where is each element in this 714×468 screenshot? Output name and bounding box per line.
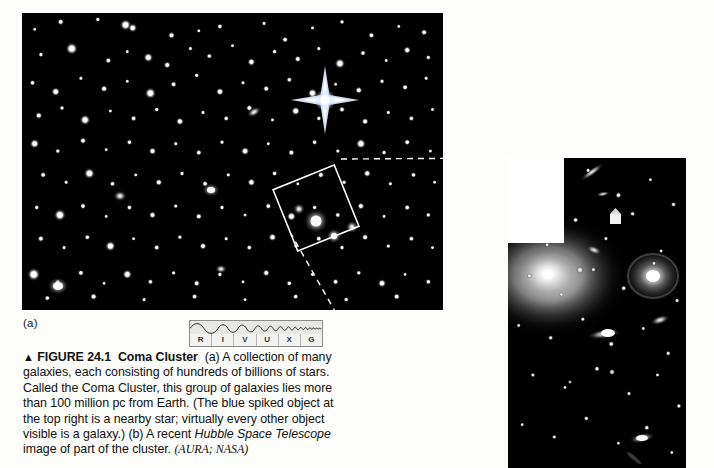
caption-body-b-after: image of part of the cluster. — [23, 442, 174, 456]
figure-caption: ▲ FIGURE 24.1 Coma Cluster (a) A collect… — [23, 350, 341, 458]
spectrum-labels: R I V U X G — [189, 334, 323, 347]
spectrum-label-u: U — [257, 334, 279, 346]
spectrum-label-r: R — [190, 334, 212, 346]
panel-overlap-notch — [508, 158, 564, 243]
spectrum-label-x: X — [279, 334, 301, 346]
caption-figure-number: FIGURE 24.1 — [37, 350, 111, 364]
spectrum-label-v: V — [234, 334, 256, 346]
caption-body-b-before: (b) A recent — [128, 427, 194, 441]
figure-page: (a) R I V U X G ▲ FIGURE 24.1 Coma Clust… — [0, 0, 714, 468]
spectrum-label-i: I — [212, 334, 234, 346]
spectrum-band-indicator: R I V U X G — [189, 320, 323, 347]
panel-a-coma-cluster-image — [22, 13, 443, 310]
caption-triangle-icon: ▲ — [23, 351, 34, 363]
caption-credit: (AURA; NASA) — [174, 442, 248, 456]
spectrum-label-g: G — [301, 334, 322, 346]
panel-a-starfield — [22, 13, 443, 310]
caption-figure-title: Coma Cluster — [118, 350, 198, 364]
panel-a-label: (a) — [23, 317, 38, 329]
spiral-galaxy — [623, 249, 683, 303]
caption-hubble-italic: Hubble Space Telescope — [195, 427, 331, 441]
spectrum-wave-box — [189, 320, 323, 335]
